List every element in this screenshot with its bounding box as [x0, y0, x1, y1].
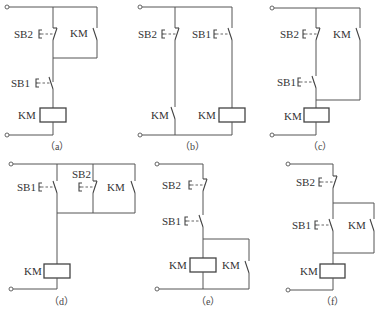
- diagram-f: SB2 SB1 KM KM （f）: [286, 162, 374, 307]
- terminal-top-icon: [286, 162, 290, 166]
- sb2-nc-button-icon: [303, 28, 320, 40]
- diagram-b: SB2 SB1 KM KM （b）: [138, 5, 245, 152]
- sb1-no-button-icon: [298, 76, 316, 88]
- caption-b: （b）: [180, 141, 205, 152]
- label-km-coil: KM: [18, 109, 36, 121]
- terminal-top-icon: [5, 5, 9, 9]
- km-no-contact-icon: [131, 181, 135, 193]
- circuit-diagrams: SB2 KM SB1 KM （a） SB2 SB1: [0, 0, 383, 319]
- km-coil-icon: [40, 108, 66, 122]
- terminal-top-icon: [155, 162, 159, 166]
- sb2-nc-button-icon: [39, 28, 57, 40]
- label-sb1: SB1: [192, 28, 211, 40]
- sb1-no-button-icon: [36, 77, 53, 89]
- label-sb2: SB2: [296, 176, 315, 188]
- sb1-no-button-icon: [315, 219, 333, 231]
- km-coil-icon: [44, 264, 70, 278]
- caption-e: （e）: [196, 296, 220, 307]
- label-sb1: SB1: [292, 219, 311, 231]
- diagram-e: SB2 SB1 KM KM （e）: [155, 162, 249, 307]
- km-coil-icon: [320, 264, 345, 278]
- caption-a: （a）: [45, 141, 69, 152]
- label-sb2: SB2: [162, 179, 181, 191]
- label-km-coil: KM: [198, 109, 216, 121]
- km-no-contact-icon: [370, 219, 374, 231]
- terminal-bottom-icon: [286, 288, 290, 292]
- label-sb2: SB2: [138, 28, 157, 40]
- terminal-bottom-icon: [5, 133, 9, 137]
- label-km-coil: KM: [24, 265, 42, 277]
- label-sb2: SB2: [72, 168, 91, 180]
- label-km-contact: KM: [333, 28, 351, 40]
- label-km-coil: KM: [169, 259, 187, 271]
- caption-f: （f）: [321, 296, 344, 307]
- terminal-top-icon: [270, 6, 274, 10]
- label-km-contact: KM: [222, 259, 240, 271]
- terminal-bottom-icon: [138, 133, 142, 137]
- km-no-contact-icon: [356, 28, 360, 40]
- label-sb1: SB1: [17, 181, 36, 193]
- diagram-c: SB2 KM SB1 KM （c）: [270, 6, 360, 152]
- diagram-a: SB2 KM SB1 KM （a）: [5, 5, 97, 152]
- label-sb2: SB2: [14, 28, 33, 40]
- km-coil-icon: [190, 258, 216, 272]
- label-sb2: SB2: [280, 28, 299, 40]
- km-coil-icon: [304, 108, 329, 122]
- terminal-top-icon: [138, 5, 142, 9]
- label-km-contact: KM: [70, 27, 88, 39]
- sb1-no-button-icon: [39, 181, 57, 193]
- label-km-contact: KM: [348, 219, 366, 231]
- sb2-nc-button-icon: [319, 176, 337, 188]
- terminal-bottom-icon: [9, 287, 13, 291]
- sb2-nc-button-icon: [189, 179, 207, 191]
- sb2-nc-button-icon: [79, 181, 97, 193]
- terminal-bottom-icon: [155, 287, 159, 291]
- label-km-coil: KM: [284, 110, 302, 122]
- km-no-contact-icon: [93, 28, 97, 40]
- caption-c: （c）: [308, 141, 332, 152]
- label-km-coil: KM: [300, 265, 318, 277]
- km-coil-icon: [219, 108, 245, 122]
- terminal-bottom-icon: [270, 133, 274, 137]
- label-km-contact: KM: [107, 181, 125, 193]
- label-sb1: SB1: [277, 76, 296, 88]
- label-sb1: SB1: [11, 77, 30, 89]
- km-no-contact-icon: [171, 107, 175, 119]
- label-sb1: SB1: [162, 215, 181, 227]
- sb1-no-button-icon: [185, 215, 203, 227]
- terminal-top-icon: [9, 162, 13, 166]
- sb2-nc-button-icon: [162, 28, 179, 40]
- caption-d: （d）: [49, 296, 74, 307]
- sb1-no-button-icon: [214, 28, 232, 40]
- km-no-contact-icon: [245, 261, 249, 273]
- diagram-d: SB1 SB2 KM KM （d）: [9, 162, 135, 307]
- label-km-contact: KM: [151, 109, 169, 121]
